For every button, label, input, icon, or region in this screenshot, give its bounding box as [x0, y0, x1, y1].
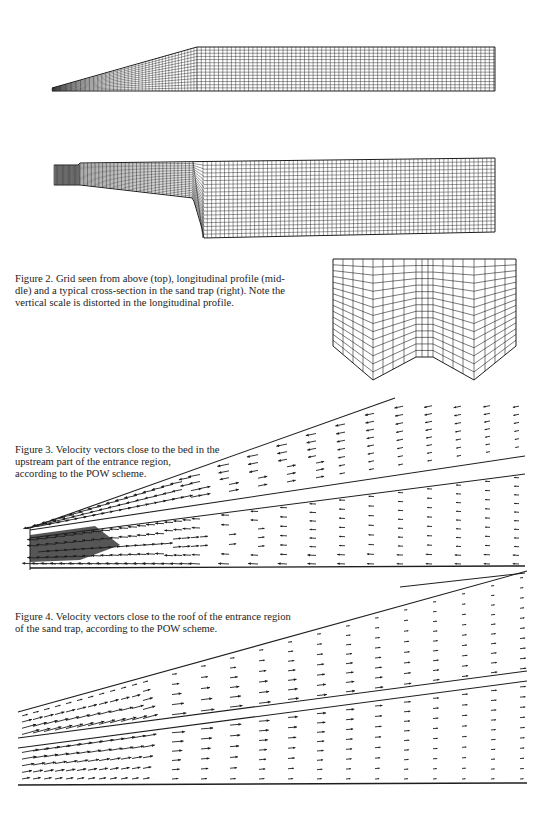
- figure-4-caption: Figure 4. Velocity vectors close to the …: [15, 611, 335, 635]
- caption-line: Figure 4. Velocity vectors close to the …: [15, 611, 335, 623]
- velocity-vector-field-roof: [0, 0, 557, 825]
- figure-4-velocity-vectors: [0, 0, 557, 825]
- caption-line: of the sand trap, according to the POW s…: [15, 623, 335, 635]
